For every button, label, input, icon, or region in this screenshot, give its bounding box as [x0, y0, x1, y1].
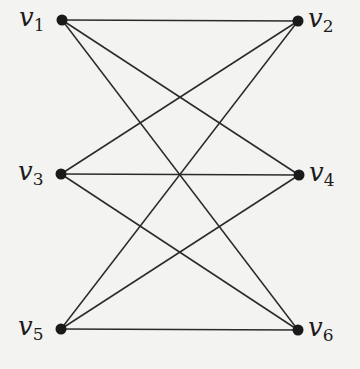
vertex-v3 — [56, 169, 67, 180]
vertex-label-v1: v1 — [19, 2, 45, 35]
edges — [61, 20, 299, 330]
edge-v1-v2 — [62, 20, 298, 21]
vertex-label-v4: v4 — [309, 157, 335, 190]
vertex-v5 — [56, 324, 67, 335]
vertex-v2 — [293, 16, 304, 27]
vertex-label-v2: v2 — [308, 3, 334, 36]
vertex-label-v6: v6 — [308, 312, 334, 345]
edge-v5-v6 — [61, 329, 298, 330]
vertex-label-v5: v5 — [18, 311, 44, 344]
vertex-label-v3: v3 — [18, 156, 44, 189]
vertex-v1 — [57, 15, 68, 26]
vertex-v6 — [293, 325, 304, 336]
vertex-v4 — [294, 170, 305, 181]
graph-canvas: v1v2v3v4v5v6 — [0, 0, 360, 369]
